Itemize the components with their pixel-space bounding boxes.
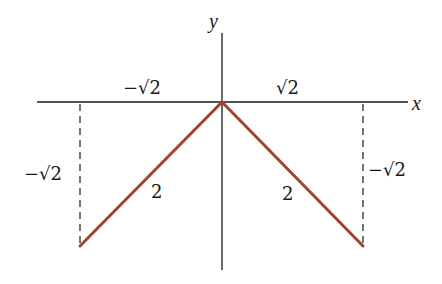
diagram-canvas: y x −√2 √2 −√2 −√2 2 2 xyxy=(0,0,442,284)
right-segment-length-label: 2 xyxy=(282,183,293,204)
right-y-tick-label: −√2 xyxy=(368,159,406,180)
x-axis-label: x xyxy=(411,92,421,114)
x-negative-tick-label: −√2 xyxy=(123,77,161,98)
x-positive-tick-label: √2 xyxy=(276,77,299,98)
right-segment xyxy=(222,102,363,246)
left-segment xyxy=(80,102,222,246)
y-axis-label: y xyxy=(207,10,218,33)
left-segment-length-label: 2 xyxy=(151,181,162,202)
left-y-tick-label: −√2 xyxy=(24,163,62,184)
